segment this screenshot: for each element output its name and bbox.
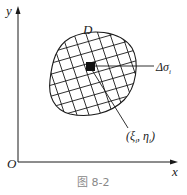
element-label-text: Δσ [156, 60, 169, 74]
point-label: (ξi, ηi) [126, 130, 155, 145]
point-label-open: (ξ [126, 129, 135, 143]
area-element [86, 62, 95, 71]
point-label-mid: , η [137, 129, 149, 143]
element-label-subscript: i [169, 68, 171, 76]
y-axis-arrow-icon [16, 6, 21, 14]
origin-label: O [7, 157, 16, 170]
diagram-canvas [0, 0, 187, 195]
figure-caption: 图 8-2 [77, 177, 109, 188]
element-label: Δσi [156, 61, 171, 76]
y-axis-label: y [6, 4, 12, 17]
x-axis-label: x [172, 165, 178, 178]
region-label: D [83, 23, 92, 36]
point-leader-line [92, 70, 128, 128]
point-label-close: ) [151, 129, 155, 143]
